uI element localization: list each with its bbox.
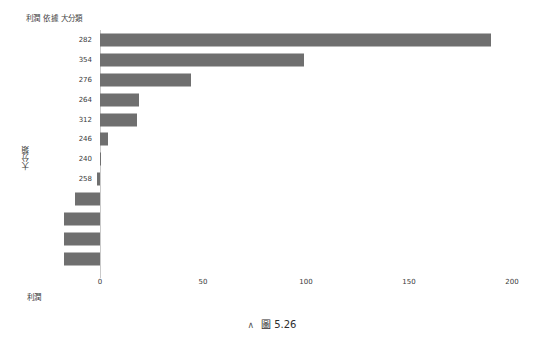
bar: [64, 252, 100, 265]
y-axis-tick-label: 240: [79, 155, 92, 163]
bar-row: 360: [0, 249, 544, 269]
bar: [100, 33, 491, 46]
bar: [100, 53, 304, 66]
bar-row: 246: [0, 129, 544, 149]
y-axis-tick-label: 354: [79, 56, 92, 64]
caption-number: 5.26: [274, 319, 296, 330]
caption-figure-word: 圖: [261, 319, 271, 330]
y-axis-tick-label: 258: [79, 175, 92, 183]
bar-row: 276: [0, 70, 544, 90]
x-axis-tick-label: 150: [402, 278, 415, 286]
x-axis-tick-label: 200: [505, 278, 518, 286]
plot-area: 282354276264312246240258270252318360: [0, 30, 544, 278]
bar: [100, 153, 101, 166]
bar: [100, 93, 139, 106]
chart-title: 利潤 依據 大分類: [26, 12, 82, 23]
bar-row: 354: [0, 50, 544, 70]
y-axis-tick-label: 264: [79, 96, 92, 104]
bar-row: 270: [0, 189, 544, 209]
bar-rows: 282354276264312246240258270252318360: [0, 30, 544, 278]
bar: [64, 212, 100, 225]
bar-row: 252: [0, 209, 544, 229]
y-axis-tick-label: 282: [79, 36, 92, 44]
bar-row: 282: [0, 30, 544, 50]
bar: [100, 113, 137, 126]
figure-page: 利潤 依據 大分類 大分類 28235427626431224624025827…: [0, 0, 544, 349]
bar: [75, 193, 100, 206]
bar: [100, 73, 191, 86]
x-axis-tick-label: 50: [199, 278, 208, 286]
y-axis-tick-label: 312: [79, 116, 92, 124]
figure-caption: ∧圖5.26: [0, 316, 544, 331]
x-axis-title: 利潤: [0, 291, 544, 302]
caret-icon: ∧: [248, 320, 255, 330]
x-axis-title-text: 利潤: [27, 293, 41, 302]
x-axis-tick-label: 100: [299, 278, 312, 286]
y-axis-tick-label: 246: [79, 135, 92, 143]
y-axis-tick-label: 276: [79, 76, 92, 84]
bar-row: 318: [0, 229, 544, 249]
bar-row: 240: [0, 149, 544, 169]
bar: [97, 173, 100, 186]
bar: [100, 133, 108, 146]
bar-row: 264: [0, 90, 544, 110]
x-axis-tick-label: 0: [98, 278, 102, 286]
bar: [64, 232, 100, 245]
bar-row: 258: [0, 169, 544, 189]
bar-row: 312: [0, 110, 544, 130]
